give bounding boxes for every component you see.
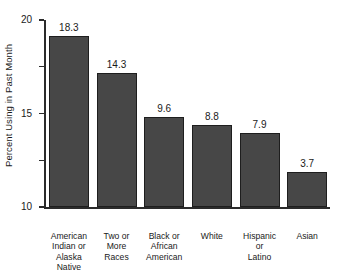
bar-value-label: 3.7	[300, 158, 314, 169]
bar[interactable]	[49, 36, 89, 207]
bar-chart-figure: Percent Using in Past Month 05101520 18.…	[0, 0, 339, 271]
bar[interactable]	[287, 172, 327, 207]
bar[interactable]	[240, 133, 280, 207]
y-axis-title: Percent Using in Past Month	[0, 0, 18, 210]
y-axis-spine	[44, 20, 46, 207]
bar[interactable]	[144, 117, 184, 207]
plot-area: 05101520 18.314.39.68.87.93.7 American I…	[44, 20, 330, 207]
bar[interactable]	[97, 73, 137, 207]
y-axis-title-text: Percent Using in Past Month	[4, 43, 15, 166]
y-tick-mark: 15	[39, 66, 44, 67]
x-tick-label: American Indian or Alaska Native	[51, 231, 87, 271]
x-axis-spine	[44, 207, 330, 209]
x-tick-label: Two or More Races	[104, 231, 130, 262]
y-tick-mark: 0	[39, 206, 44, 207]
x-tick-label: Hispanic or Latino	[243, 231, 276, 262]
bar-value-label: 18.3	[59, 22, 78, 33]
bar-value-label: 8.8	[205, 111, 219, 122]
y-tick-mark: 10	[39, 113, 44, 114]
y-tick-mark: 5	[39, 160, 44, 161]
bar-value-label: 9.6	[157, 103, 171, 114]
y-tick-mark: 20	[39, 19, 44, 20]
y-tick-label: 10	[21, 201, 32, 212]
x-tick-label: White	[201, 231, 223, 241]
bar-value-label: 14.3	[107, 59, 126, 70]
bar-value-label: 7.9	[253, 119, 267, 130]
y-tick-label: 15	[21, 107, 32, 118]
y-tick-label: 20	[21, 14, 32, 25]
x-tick-label: Asian	[296, 231, 318, 241]
bar[interactable]	[192, 125, 232, 207]
x-tick-label: Black or African American	[146, 231, 182, 262]
